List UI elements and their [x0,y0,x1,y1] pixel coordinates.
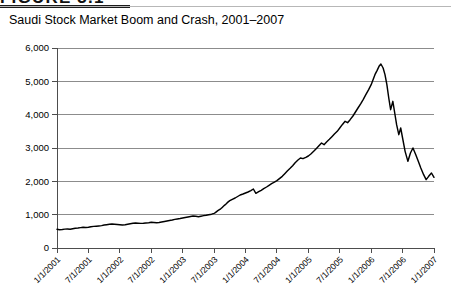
x-axis-tickmarks [57,248,434,253]
data-series [57,64,434,230]
chart-svg: 6,0005,0004,0003,0002,0001,0000 1/1/2001… [0,0,451,299]
y-tick-label: 5,000 [25,76,49,87]
y-axis-tickmarks [52,48,57,248]
x-tick-label: 7/1/2002 [126,254,157,285]
x-tick-label: 1/1/2003 [157,254,188,285]
y-tick-label: 2,000 [25,176,49,187]
y-tick-label: 1,000 [25,209,49,220]
x-tick-label: 1/1/2007 [409,254,440,285]
x-tick-label: 7/1/2004 [252,254,283,285]
y-tick-label: 4,000 [25,109,49,120]
x-tick-label: 7/1/2006 [377,254,408,285]
x-tick-label: 1/1/2006 [346,254,377,285]
x-axis-labels: 1/1/20017/1/20011/1/20027/1/20021/1/2003… [32,254,440,285]
y-tick-label: 3,000 [25,142,49,153]
x-tick-label: 1/1/2004 [220,254,251,285]
y-axis-labels: 6,0005,0004,0003,0002,0001,0000 [25,42,49,253]
y-tick-label: 0 [44,242,49,253]
x-tick-label: 7/1/2001 [63,254,94,285]
gridlines [57,48,434,248]
x-tick-label: 7/1/2003 [189,254,220,285]
x-tick-label: 1/1/2002 [95,254,126,285]
line-chart: 6,0005,0004,0003,0002,0001,0000 1/1/2001… [0,0,451,299]
x-tick-label: 7/1/2005 [314,254,345,285]
y-tick-label: 6,000 [25,42,49,53]
series-line [57,64,434,230]
x-tick-label: 1/1/2005 [283,254,314,285]
x-tick-label: 1/1/2001 [32,254,63,285]
